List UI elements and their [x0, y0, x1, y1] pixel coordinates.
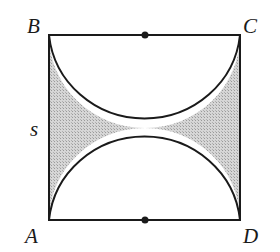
- vertex-label-c: C: [243, 14, 258, 38]
- vertex-label-a: A: [23, 224, 38, 248]
- shaded-region-left: [49, 35, 145, 220]
- vertex-label-d: D: [242, 224, 258, 248]
- shaded-region-right: [145, 35, 240, 220]
- midpoint-bc-dot: [142, 32, 149, 39]
- side-label-s: s: [30, 117, 38, 141]
- vertex-label-b: B: [27, 14, 40, 38]
- midpoint-ad-dot: [142, 217, 149, 224]
- geometry-diagram: B C A D s: [0, 0, 280, 252]
